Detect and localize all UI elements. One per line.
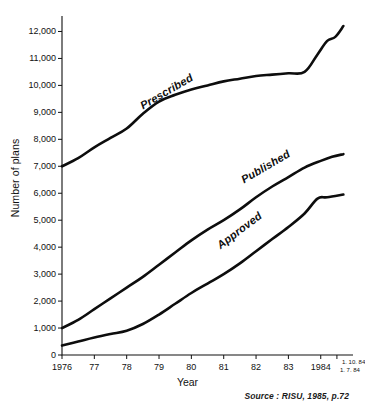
y-tick-label: 5,000: [8, 215, 56, 225]
y-tick-label: 6,000: [8, 188, 56, 198]
x-tick-label: 82: [251, 362, 261, 372]
y-tick-label: 2,000: [8, 296, 56, 306]
x-tick-extra-label: 1. 10. 84: [342, 358, 365, 366]
y-tick-label: 8,000: [8, 134, 56, 144]
series-line-published: [62, 154, 343, 328]
y-tick-label: 11,000: [8, 53, 56, 63]
x-tick-label: 77: [89, 362, 99, 372]
y-tick-label: 4,000: [8, 242, 56, 252]
y-tick-label: 7,000: [8, 161, 56, 171]
y-tick-label: 0: [8, 350, 56, 360]
x-tick-label: 78: [122, 362, 132, 372]
x-axis-title: Year: [0, 376, 357, 388]
x-tick-label: 79: [154, 362, 164, 372]
x-tick-extra-labels: 1. 10. 841. 7. 84: [340, 358, 365, 374]
x-tick-label: 1984: [311, 362, 331, 372]
y-tick-label: 1,000: [8, 323, 56, 333]
x-tick-label: 1976: [52, 362, 72, 372]
series-line-approved: [62, 195, 343, 346]
source-note: Source : RISU, 1985, p.72: [244, 391, 349, 401]
y-tick-label: 12,000: [8, 26, 56, 36]
y-tick-label: 9,000: [8, 107, 56, 117]
x-tick-extra-label: 1. 7. 84: [340, 366, 365, 374]
x-tick-label: 83: [283, 362, 293, 372]
x-axis-title-text: Year: [177, 376, 198, 388]
y-tick-label: 10,000: [8, 80, 56, 90]
y-tick-label: 3,000: [8, 269, 56, 279]
x-tick-label: 81: [219, 362, 229, 372]
x-tick-label: 80: [186, 362, 196, 372]
series-line-prescribed: [62, 26, 343, 166]
